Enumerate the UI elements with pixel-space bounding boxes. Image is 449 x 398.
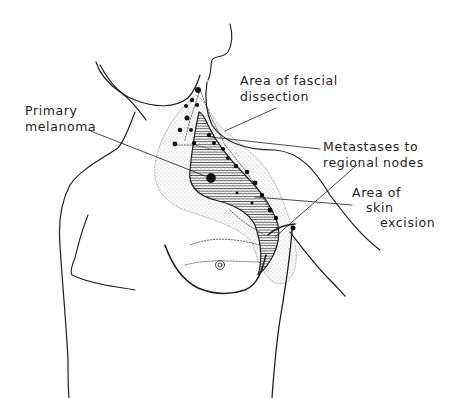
- right-breast-outline: [165, 245, 266, 294]
- label-metastases-line1: Metastases to: [323, 139, 418, 154]
- label-skin-excision-line1: Area of: [352, 185, 401, 200]
- primary-melanoma-icon: [207, 174, 216, 183]
- label-skin-excision-line3: excision: [380, 215, 435, 230]
- label-metastases-line2: regional nodes: [323, 155, 424, 170]
- left-shoulder-outline: [59, 112, 135, 398]
- label-primary-melanoma-line2: melanoma: [25, 119, 96, 134]
- left-breast-outline: [71, 215, 135, 290]
- right-arm-outline: [290, 232, 345, 296]
- nipple-icon: [216, 261, 225, 270]
- label-primary-melanoma-line1: Primary: [25, 103, 78, 118]
- label-fascial-dissection-line1: Area of fascial: [240, 73, 338, 88]
- jaw-outline: [208, 24, 232, 80]
- label-fascial-dissection-line2: dissection: [240, 89, 309, 104]
- chin-outline: [100, 65, 200, 106]
- label-skin-excision-line2: skin: [366, 200, 394, 215]
